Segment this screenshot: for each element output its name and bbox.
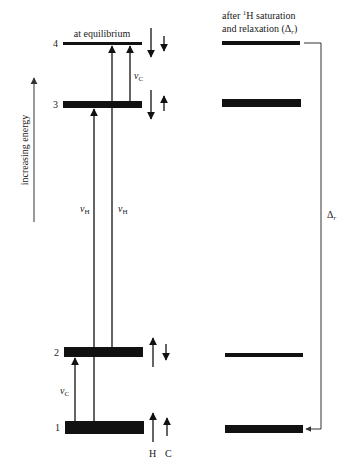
transition-label-2-4: νH xyxy=(118,203,128,216)
left-level-3 xyxy=(63,101,142,108)
spin-column-label-C: C xyxy=(165,448,172,459)
spin-state-level-2 xyxy=(153,338,166,367)
spin-state-level-4 xyxy=(151,28,164,57)
spin-state-level-3 xyxy=(151,90,164,119)
transition-label-1-2: νC xyxy=(60,385,69,398)
level-number-2: 2 xyxy=(54,347,59,358)
right-level-1 xyxy=(225,425,303,433)
transition-label-1-3: νH xyxy=(80,203,90,216)
spin-column-label-H: H xyxy=(149,448,156,459)
spin-state-level-1 xyxy=(153,413,167,442)
relaxation-bracket xyxy=(304,43,321,429)
level-number-4: 4 xyxy=(53,38,58,49)
left-panel-equilibrium: at equilibrium 4 3 2 1 νC νH νH νC xyxy=(53,28,172,459)
right-level-2 xyxy=(225,353,303,357)
transition-label-3-4: νC xyxy=(134,70,143,83)
left-panel-title: at equilibrium xyxy=(74,28,131,39)
energy-axis-label: increasing energy xyxy=(19,115,30,186)
left-level-4 xyxy=(63,42,142,45)
level-number-3: 3 xyxy=(53,99,58,110)
right-panel-after-saturation: after 1H saturation and relaxation (Δr) … xyxy=(222,9,336,433)
right-level-4 xyxy=(222,41,300,45)
right-panel-title-line1: after 1H saturation xyxy=(222,9,295,21)
energy-axis: increasing energy xyxy=(19,78,34,222)
energy-diagram: increasing energy at equilibrium 4 3 2 1… xyxy=(0,0,349,476)
left-level-1 xyxy=(65,421,144,434)
right-panel-title-line2: and relaxation (Δr) xyxy=(222,23,297,36)
level-number-1: 1 xyxy=(55,422,60,433)
right-level-3 xyxy=(222,99,301,107)
relaxation-label: Δr xyxy=(327,209,336,222)
left-level-2 xyxy=(64,347,143,357)
